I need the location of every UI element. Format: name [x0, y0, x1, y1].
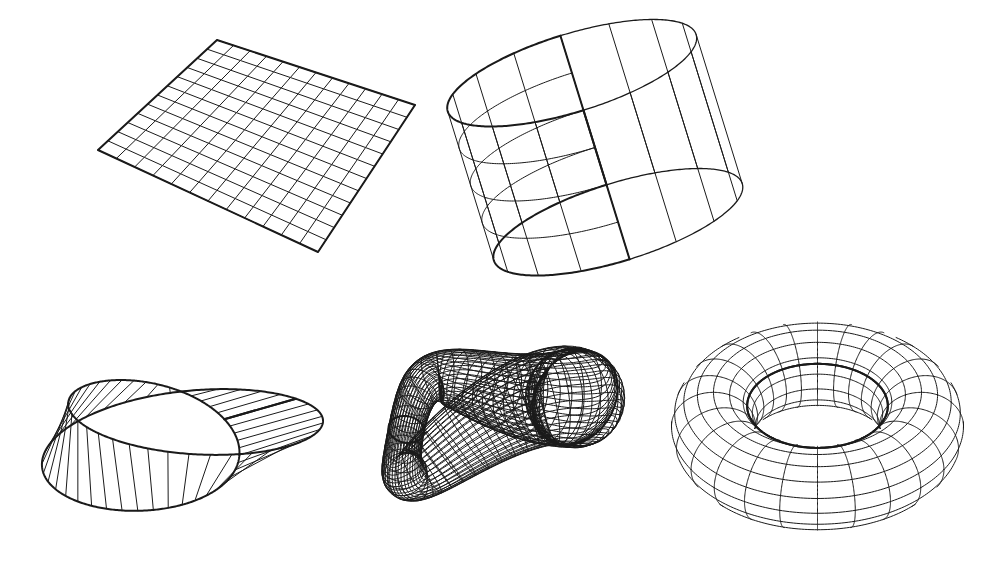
torus-face: [822, 384, 826, 389]
torus-face: [926, 384, 932, 389]
torus-face: [822, 402, 827, 404]
torus-face: [808, 358, 813, 364]
torus-face: [818, 393, 822, 397]
torus-face: [818, 402, 823, 404]
torus-face: [813, 384, 817, 389]
torus-face: [805, 449, 812, 452]
torus-face: [818, 342, 824, 347]
torus-face: [809, 374, 813, 379]
torus-face: [818, 389, 822, 393]
torus-face: [798, 334, 805, 339]
torus-face: [818, 477, 827, 483]
torus-face: [813, 379, 817, 384]
torus-face: [810, 458, 818, 462]
torus-face: [822, 353, 827, 359]
torus-face: [703, 384, 709, 389]
torus-face: [818, 471, 826, 476]
torus-face: [827, 503, 837, 509]
torus-face: [808, 517, 818, 521]
torus-face: [807, 347, 813, 352]
torus-face: [818, 508, 828, 513]
torus-face: [798, 517, 808, 521]
torus-face: [812, 347, 817, 352]
torus-face: [818, 527, 827, 529]
torus-face: [813, 358, 818, 364]
torus-face: [795, 457, 803, 462]
torus-face: [828, 348, 834, 354]
torus-face: [790, 486, 799, 492]
torus-face: [807, 353, 812, 359]
torus-face: [818, 374, 822, 379]
torus-face: [818, 517, 828, 521]
torus-face: [826, 380, 830, 385]
torus-face: [806, 342, 812, 347]
torus-face: [808, 508, 818, 513]
torus-face: [818, 449, 824, 451]
surfaces-figure: [0, 0, 995, 574]
torus-face: [789, 502, 799, 508]
torus-face: [818, 379, 822, 384]
torus-face: [808, 527, 817, 529]
torus-face: [824, 334, 831, 338]
torus-face: [809, 467, 817, 472]
torus-face: [825, 325, 833, 328]
torus-face: [824, 449, 831, 452]
torus-face: [825, 458, 833, 463]
torus-face: [823, 347, 829, 352]
torus-face: [818, 467, 826, 472]
torus-face: [826, 369, 831, 375]
torus-face: [818, 504, 828, 509]
torus-face: [808, 487, 817, 493]
torus-face: [841, 382, 845, 388]
torus-face: [818, 369, 822, 374]
torus-face: [808, 402, 813, 404]
torus-face: [803, 458, 811, 463]
torus-face: [809, 379, 813, 384]
torus-face: [910, 396, 916, 400]
torus-face: [818, 334, 824, 338]
torus-face: [811, 449, 817, 451]
torus-face: [835, 486, 844, 492]
torus-face: [809, 477, 818, 483]
torus-face: [818, 482, 827, 488]
torus-face: [813, 393, 817, 397]
torus-face: [805, 380, 809, 385]
torus-face: [826, 393, 830, 397]
torus-face: [834, 470, 843, 476]
torus-face: [798, 503, 808, 509]
torus-face: [818, 458, 826, 462]
torus-face: [808, 498, 817, 503]
torus-face: [801, 471, 810, 477]
torus-face: [823, 342, 829, 347]
torus-face: [826, 487, 835, 493]
torus-face: [812, 342, 818, 347]
torus-face: [813, 402, 818, 404]
torus-face: [810, 325, 818, 328]
torus-face: [805, 393, 809, 397]
torus-face: [809, 369, 814, 375]
torus-face: [826, 471, 835, 477]
torus-face: [812, 352, 817, 357]
figure-panel-torus: [0, 0, 995, 574]
torus-face: [809, 471, 817, 476]
torus-face: [809, 393, 813, 397]
torus-face: [793, 381, 797, 387]
torus-face: [818, 358, 823, 364]
torus-face: [822, 374, 826, 379]
torus-face: [801, 348, 807, 354]
torus-face: [822, 369, 827, 375]
torus-face: [818, 498, 827, 503]
torus-face: [809, 482, 818, 488]
torus-face: [822, 358, 827, 364]
torus-face: [818, 462, 826, 467]
torus-face: [818, 352, 823, 357]
torus-face: [811, 338, 817, 343]
torus-face: [832, 457, 840, 462]
torus-face: [838, 381, 842, 387]
torus-face: [813, 389, 817, 393]
torus-face: [805, 334, 812, 338]
torus-face: [804, 369, 809, 375]
torus-face: [789, 382, 793, 388]
torus-face: [813, 369, 817, 374]
torus-face: [808, 504, 818, 509]
